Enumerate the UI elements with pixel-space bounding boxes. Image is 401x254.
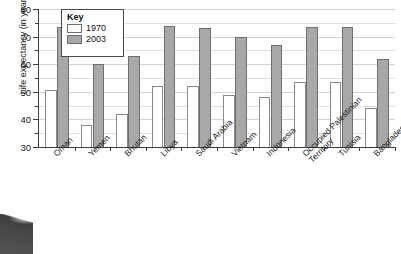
y-tick-mark-50 [33,92,39,93]
legend-label-2003: 2003 [86,35,106,44]
legend-item-1970: 1970 [67,24,119,33]
bar-vietnam-2003 [235,37,247,147]
y-tick-label-30: 30 [20,142,31,153]
y-tick-label-40: 40 [20,114,31,125]
y-tick-mark-45 [35,106,39,107]
legend-item-2003: 2003 [67,35,119,44]
y-tick-mark-65 [35,50,39,51]
x-tick-mark-6 [288,147,289,151]
x-tick-mark-5 [253,147,254,151]
bar-libya-1970 [152,86,164,147]
x-tick-mark-9 [395,147,396,151]
bar-oman-1970 [45,90,57,147]
y-tick-mark-40 [33,119,39,120]
legend: Key 1970 2003 [61,9,124,57]
y-tick-label-60: 60 [20,59,31,70]
bar-occupied-palestinian-territory-2003 [306,27,318,147]
y-tick-mark-80 [33,9,39,10]
x-tick-mark-8 [359,147,360,151]
x-tick-mark-1 [110,147,111,151]
legend-swatch-1970 [67,24,82,33]
legend-label-1970: 1970 [86,24,106,33]
bar-bhutan-1970 [116,114,128,147]
bar-indonesia-1970 [259,97,271,147]
y-tick-mark-60 [33,64,39,65]
y-tick-mark-75 [35,23,39,24]
x-tick-mark-3 [181,147,182,151]
y-tick-label-50: 50 [20,86,31,97]
scan-edge-artifact [0,214,33,254]
y-tick-mark-55 [35,78,39,79]
bar-indonesia-2003 [271,45,283,147]
legend-swatch-2003 [67,35,82,44]
bar-libya-2003 [164,26,176,147]
x-tick-mark-4 [217,147,218,151]
bar-saudi-arabia-2003 [199,28,211,147]
bar-yemen-1970 [81,125,93,147]
y-tick-label-80: 80 [20,4,31,15]
x-tick-mark-2 [146,147,147,151]
y-tick-mark-70 [33,37,39,38]
y-tick-mark-35 [35,133,39,134]
x-tick-mark-0 [75,147,76,151]
bar-chart-figure: Life expectancy (in years) 304050607080 … [0,0,401,254]
y-tick-mark-30 [33,147,39,148]
legend-title: Key [67,13,119,22]
bar-saudi-arabia-1970 [187,86,199,147]
bar-bangladesh-1970 [365,108,377,147]
y-tick-label-70: 70 [20,31,31,42]
bar-bhutan-2003 [128,56,140,147]
bar-occupied-palestinian-territory-1970 [294,82,306,147]
